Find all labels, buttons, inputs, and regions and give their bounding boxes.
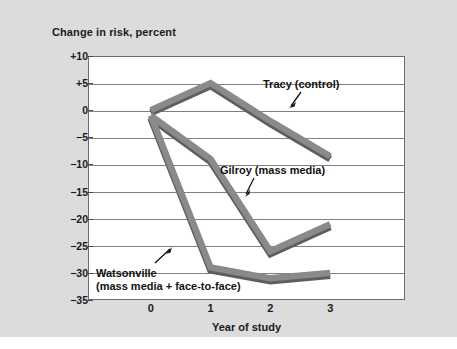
y-tick-mark	[88, 164, 93, 165]
gridline	[89, 219, 404, 220]
y-tick-mark	[88, 56, 93, 57]
y-tick-label: −5	[54, 131, 88, 143]
plot-area	[88, 56, 405, 300]
y-tick-mark	[88, 273, 93, 274]
x-tick-label: 3	[327, 302, 333, 314]
y-tick-mark	[88, 246, 93, 247]
annotation-gilroy-line1: Gilroy (mass media)	[220, 164, 325, 177]
y-tick-mark	[88, 192, 93, 193]
y-tick-label: −15	[54, 186, 88, 198]
y-tick-mark	[88, 300, 93, 301]
y-tick-label: +10	[54, 50, 88, 62]
y-tick-mark	[88, 83, 93, 84]
y-tick-label: −30	[54, 267, 88, 279]
y-axis-ticks: +10+50−5−10−15−20−25−30−35	[48, 56, 88, 300]
x-tick-label: 2	[267, 302, 273, 314]
x-axis-label: Year of study	[88, 321, 405, 333]
y-tick-label: −35	[54, 294, 88, 306]
y-axis-label: Change in risk, percent	[52, 26, 176, 38]
x-tick-label: 0	[148, 302, 154, 314]
y-tick-label: 0	[54, 104, 88, 116]
gridline	[89, 192, 404, 193]
y-tick-mark	[88, 137, 93, 138]
y-tick-label: +5	[54, 77, 88, 89]
annotation-tracy-line1: Tracy (control)	[263, 78, 339, 91]
x-axis-ticks: 0123	[88, 302, 405, 320]
gridline	[89, 111, 404, 112]
y-tick-mark	[88, 219, 93, 220]
x-tick-label: 1	[208, 302, 214, 314]
gridline	[89, 138, 404, 139]
annotation-gilroy: Gilroy (mass media)	[220, 164, 325, 177]
annotation-tracy: Tracy (control)	[263, 78, 339, 91]
annotation-watsonville-line2: (mass media + face-to-face)	[96, 280, 241, 293]
y-tick-label: −20	[54, 213, 88, 225]
gridlines	[89, 57, 404, 299]
chart-figure: Change in risk, percent +10+50−5−10−15−2…	[0, 0, 457, 349]
gridline	[89, 84, 404, 85]
y-tick-label: −25	[54, 240, 88, 252]
y-tick-label: −10	[54, 158, 88, 170]
annotation-watsonville-line1: Watsonville	[96, 267, 241, 280]
gridline	[89, 246, 404, 247]
annotation-watsonville: Watsonville (mass media + face-to-face)	[96, 267, 241, 293]
y-tick-mark	[88, 110, 93, 111]
